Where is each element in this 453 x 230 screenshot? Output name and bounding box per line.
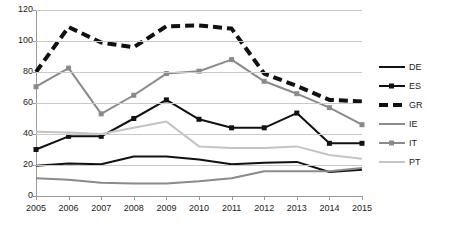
data-point-it — [327, 105, 332, 110]
y-axis-tick — [32, 165, 36, 166]
data-point-es — [164, 97, 169, 102]
legend-swatch-ie — [378, 118, 406, 130]
x-axis-tick — [101, 196, 102, 200]
gridline — [36, 41, 362, 42]
y-axis-labels: 020406080100120 — [0, 0, 33, 210]
data-point-es — [294, 111, 299, 116]
legend-item-it[interactable]: IT — [378, 133, 450, 152]
data-point-es — [327, 141, 332, 146]
data-point-it — [229, 57, 234, 62]
legend-label: DE — [406, 62, 422, 72]
data-point-es — [262, 125, 267, 130]
legend-swatch-gr — [378, 99, 406, 111]
data-point-es — [360, 141, 365, 146]
gridline — [36, 165, 362, 166]
y-axis-tick-label: 40 — [3, 129, 33, 138]
y-axis-tick-label: 60 — [3, 98, 33, 107]
data-point-it — [66, 66, 71, 71]
x-axis-tick — [232, 196, 233, 200]
data-point-it — [99, 111, 104, 116]
line-chart: 020406080100120 DEESGRIEITPT 20052006200… — [0, 0, 453, 230]
gridline — [36, 103, 362, 104]
data-point-es — [131, 116, 136, 121]
legend-swatch-de — [378, 61, 406, 73]
legend-swatch-es — [378, 80, 406, 92]
y-axis-tick — [32, 10, 36, 11]
legend-item-es[interactable]: ES — [378, 76, 450, 95]
gridline — [36, 134, 362, 135]
x-axis-tick — [134, 196, 135, 200]
y-axis-tick-label: 100 — [3, 36, 33, 45]
x-axis-tick — [297, 196, 298, 200]
gridline — [36, 10, 362, 11]
legend-label: GR — [406, 100, 423, 110]
y-axis-tick-label: 0 — [3, 191, 33, 200]
legend-item-pt[interactable]: PT — [378, 152, 450, 171]
plot-area — [36, 10, 362, 196]
data-point-it — [34, 84, 39, 89]
series-line-ie — [36, 168, 362, 184]
data-point-it — [131, 93, 136, 98]
legend-label: ES — [406, 81, 421, 91]
legend-item-gr[interactable]: GR — [378, 95, 450, 114]
data-point-it — [294, 91, 299, 96]
legend-label: IE — [406, 119, 418, 129]
legend-swatch-it — [378, 137, 406, 149]
x-axis-tick — [264, 196, 265, 200]
x-axis-tick — [362, 196, 363, 200]
data-point-es — [229, 125, 234, 130]
data-point-it — [360, 122, 365, 127]
y-axis-tick-label: 80 — [3, 67, 33, 76]
data-point-es — [197, 117, 202, 122]
y-axis-tick — [32, 103, 36, 104]
legend-item-de[interactable]: DE — [378, 57, 450, 76]
gridline — [36, 72, 362, 73]
y-axis-tick — [32, 72, 36, 73]
legend-label: IT — [406, 138, 417, 148]
y-axis-tick-label: 20 — [3, 160, 33, 169]
legend-swatch-pt — [378, 156, 406, 168]
x-axis-tick — [36, 196, 37, 200]
x-axis-tick — [166, 196, 167, 200]
data-point-it — [262, 79, 267, 84]
legend-item-ie[interactable]: IE — [378, 114, 450, 133]
x-axis-tick — [69, 196, 70, 200]
chart-legend: DEESGRIEITPT — [378, 57, 450, 171]
data-point-es — [34, 147, 39, 152]
x-axis-tick-label: 2015 — [342, 203, 382, 213]
x-axis-tick — [329, 196, 330, 200]
y-axis-tick — [32, 134, 36, 135]
legend-label: PT — [406, 157, 421, 167]
series-line-es — [36, 100, 362, 150]
y-axis-tick-label: 120 — [3, 5, 33, 14]
x-axis-tick — [199, 196, 200, 200]
y-axis-tick — [32, 41, 36, 42]
